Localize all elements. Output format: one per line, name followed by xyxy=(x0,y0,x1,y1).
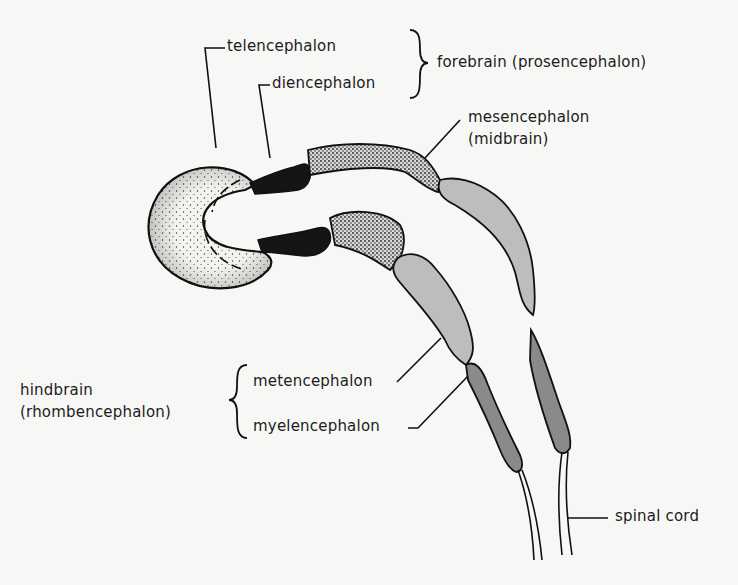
diencephalon-upper-shape xyxy=(250,164,311,194)
metencephalon-lower-shape xyxy=(394,254,473,365)
hindbrain-brace xyxy=(229,365,247,438)
myelencephalon-upper-shape xyxy=(530,330,570,453)
label-rhombencephalon: (rhombencephalon) xyxy=(20,403,171,422)
label-diencephalon: diencephalon xyxy=(272,74,375,93)
label-myelencephalon: myelencephalon xyxy=(253,417,380,436)
leader-diencephalon xyxy=(259,85,270,158)
spinal-cord-shape xyxy=(518,452,572,560)
myelencephalon-lower-shape xyxy=(466,364,522,472)
label-midbrain: (midbrain) xyxy=(468,130,549,149)
label-mesencephalon: mesencephalon xyxy=(468,108,590,127)
label-forebrain: forebrain (prosencephalon) xyxy=(437,53,646,72)
mesencephalon-upper-shape xyxy=(308,144,440,192)
forebrain-brace xyxy=(410,30,428,98)
leader-metencephalon xyxy=(397,338,441,382)
label-telencephalon: telencephalon xyxy=(227,37,336,56)
label-spinal-cord: spinal cord xyxy=(615,507,699,526)
leader-telencephalon xyxy=(205,48,225,148)
mesencephalon-lower-shape xyxy=(330,212,404,270)
label-hindbrain: hindbrain xyxy=(20,381,93,400)
leader-myelencephalon xyxy=(408,376,468,428)
label-metencephalon: metencephalon xyxy=(253,372,373,391)
diencephalon-lower-shape xyxy=(258,228,331,256)
leader-mesencephalon xyxy=(425,120,460,158)
